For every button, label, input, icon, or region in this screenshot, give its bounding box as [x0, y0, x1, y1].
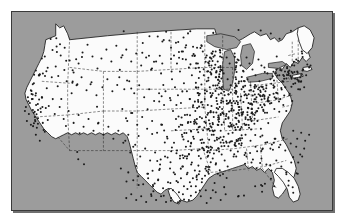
data-point [159, 163, 161, 165]
data-point [154, 152, 156, 154]
data-point [240, 108, 242, 110]
data-point [292, 130, 294, 132]
data-point [232, 132, 234, 134]
map-plate [11, 11, 333, 211]
data-point [257, 107, 259, 109]
data-point [279, 98, 281, 100]
data-point [235, 84, 237, 86]
data-point [158, 100, 160, 102]
data-point [264, 98, 266, 100]
data-point [77, 158, 79, 160]
data-point [162, 187, 164, 189]
data-point [180, 102, 182, 104]
data-point [270, 178, 272, 180]
data-point [221, 56, 223, 58]
data-point [161, 40, 163, 42]
data-point [184, 46, 186, 48]
data-point [208, 139, 210, 141]
data-point [187, 121, 189, 123]
data-point [212, 32, 214, 34]
data-point [163, 39, 165, 41]
data-point [275, 72, 277, 74]
data-point [187, 140, 189, 142]
data-point [87, 44, 89, 46]
data-point [206, 90, 208, 92]
data-point [40, 111, 42, 113]
data-point [237, 151, 239, 153]
data-point [234, 56, 236, 58]
data-point [234, 126, 236, 128]
data-point [216, 87, 218, 89]
data-point [121, 108, 123, 110]
data-point [170, 58, 172, 60]
data-point [221, 108, 223, 110]
data-point [278, 74, 280, 76]
data-point [308, 66, 310, 68]
data-point [199, 170, 201, 172]
data-point [236, 139, 238, 141]
data-point [209, 71, 211, 73]
data-point [178, 51, 180, 53]
data-point [189, 98, 191, 100]
data-point [202, 148, 204, 150]
data-point [201, 138, 203, 140]
data-point [243, 80, 245, 82]
us-outline [25, 24, 312, 202]
data-point [202, 129, 204, 131]
data-point [251, 112, 253, 114]
data-point [212, 85, 214, 87]
data-point [52, 98, 54, 100]
data-point [208, 64, 210, 66]
data-point [214, 182, 216, 184]
data-point [279, 144, 281, 146]
data-point [276, 56, 278, 58]
data-point [126, 120, 128, 122]
data-point [241, 134, 243, 136]
data-point [299, 88, 301, 90]
data-point [247, 78, 249, 80]
data-point [133, 92, 135, 94]
data-point [218, 116, 220, 118]
data-point [264, 71, 266, 73]
data-point [220, 113, 222, 115]
data-point [224, 94, 226, 96]
data-point [88, 118, 90, 120]
data-point [34, 116, 36, 118]
data-point [248, 90, 250, 92]
data-point [197, 165, 199, 167]
data-point [220, 102, 222, 104]
data-point [269, 148, 271, 150]
data-point [56, 46, 58, 48]
data-point [197, 99, 199, 101]
data-point [191, 74, 193, 76]
data-point [207, 61, 209, 63]
data-point [181, 117, 183, 119]
data-point [293, 61, 295, 63]
data-point [170, 47, 172, 49]
data-point [37, 117, 39, 119]
data-point [298, 81, 300, 83]
data-point [218, 150, 220, 152]
data-point [254, 112, 256, 114]
data-point [45, 107, 47, 109]
data-point [239, 99, 241, 101]
data-point [174, 86, 176, 88]
data-point [220, 142, 222, 144]
data-point [191, 55, 193, 57]
data-point [42, 122, 44, 124]
data-point [273, 86, 275, 88]
data-point [265, 85, 267, 87]
data-point [260, 64, 262, 66]
data-point [63, 118, 65, 120]
data-point [275, 159, 277, 161]
data-point [240, 126, 242, 128]
data-point [175, 180, 177, 182]
data-point [174, 173, 176, 175]
data-point [247, 119, 249, 121]
data-point [153, 100, 155, 102]
data-point [256, 110, 258, 112]
data-point [39, 140, 41, 142]
data-point [225, 193, 227, 195]
data-point [244, 124, 246, 126]
data-point [163, 195, 165, 197]
